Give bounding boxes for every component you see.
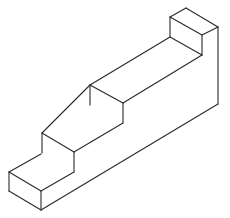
edge-line [9,154,41,172]
edge-line [170,8,186,17]
edge-line [186,8,218,27]
edge-line [9,191,41,210]
edge-line [123,55,202,103]
edge-line [41,172,74,191]
edge-line [42,85,90,133]
edge-line [170,17,202,35]
edge-line [90,37,170,85]
edge-line [74,123,123,152]
edge-line [202,27,218,35]
edge-line [9,172,41,191]
edge-line [42,133,74,152]
edge-line [90,85,123,103]
isometric-staircase-diagram [0,0,230,218]
edge-line [41,104,218,210]
edge-line [170,37,202,55]
